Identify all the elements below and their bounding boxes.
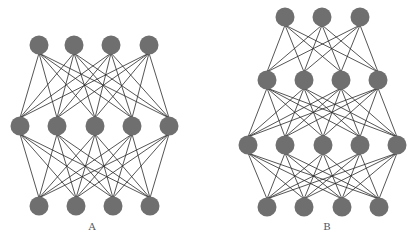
edge-a-l1n3-l2n0 <box>39 134 132 198</box>
node-b-layer1-1 <box>295 71 314 90</box>
edge-a-l1n4-l2n1 <box>76 134 169 198</box>
node-a-layer0-3 <box>140 36 159 55</box>
node-a-layer1-4 <box>160 117 179 136</box>
edge-b-l0n2-l1n2 <box>341 25 360 72</box>
edge-a-l1n4-l2n0 <box>39 134 169 198</box>
edge-b-l1n0-l2n0 <box>248 88 267 137</box>
edge-b-l0n0-l1n0 <box>267 25 285 72</box>
node-b-layer2-2 <box>314 136 333 155</box>
edge-a-l0n2-l1n4 <box>111 53 169 118</box>
node-a-layer0-1 <box>65 36 84 55</box>
edge-b-l2n3-l3n0 <box>267 153 360 199</box>
edge-a-l0n0-l1n4 <box>39 53 169 118</box>
edge-b-l1n2-l2n0 <box>248 88 341 137</box>
edge-a-l0n3-l1n0 <box>20 53 149 118</box>
node-b-layer0-0 <box>276 8 295 27</box>
edge-b-l2n4-l3n3 <box>379 153 397 199</box>
edge-a-l1n1-l2n0 <box>39 134 57 198</box>
node-a-layer2-0 <box>30 197 49 216</box>
node-b-layer0-1 <box>313 8 332 27</box>
node-b-layer2-4 <box>388 136 407 155</box>
node-b-layer3-3 <box>370 198 389 217</box>
network-b-nodes <box>239 8 407 217</box>
edge-a-l0n0-l1n0 <box>20 53 39 118</box>
node-b-layer2-1 <box>276 136 295 155</box>
node-a-layer1-3 <box>123 117 142 136</box>
node-a-layer1-0 <box>11 117 30 136</box>
edge-b-l0n1-l1n3 <box>322 25 378 72</box>
node-b-layer2-3 <box>351 136 370 155</box>
network-diagram-canvas <box>0 0 420 243</box>
edge-b-l2n0-l3n0 <box>248 153 267 199</box>
panel-label-b: B <box>323 222 330 232</box>
node-b-layer3-2 <box>333 198 352 217</box>
node-a-layer0-2 <box>102 36 121 55</box>
network-a-nodes <box>11 36 179 216</box>
node-b-layer1-2 <box>332 71 351 90</box>
edge-a-l0n0-l1n1 <box>39 53 57 118</box>
node-a-layer0-0 <box>30 36 49 55</box>
node-a-layer2-2 <box>104 197 123 216</box>
panel-label-a: A <box>88 222 95 232</box>
node-b-layer3-1 <box>295 198 314 217</box>
edge-b-l1n3-l2n4 <box>378 88 397 137</box>
node-b-layer1-3 <box>369 71 388 90</box>
node-b-layer3-0 <box>258 198 277 217</box>
edge-a-l1n4-l2n3 <box>150 134 169 198</box>
edge-a-l1n2-l2n0 <box>39 134 95 198</box>
node-a-layer1-1 <box>48 117 67 136</box>
node-b-layer2-0 <box>239 136 258 155</box>
node-b-layer0-2 <box>351 8 370 27</box>
edge-b-l1n3-l2n3 <box>360 88 378 137</box>
node-a-layer1-2 <box>86 117 105 136</box>
edge-a-l0n3-l1n4 <box>149 53 169 118</box>
node-b-layer1-0 <box>258 71 277 90</box>
node-a-layer2-1 <box>67 197 86 216</box>
network-b-edges <box>248 25 397 199</box>
edge-a-l0n0-l1n3 <box>39 53 132 118</box>
network-panel-b <box>239 8 407 217</box>
edge-a-l1n0-l2n0 <box>20 134 39 198</box>
edge-a-l1n4-l2n2 <box>113 134 169 198</box>
network-panel-a <box>11 36 179 216</box>
node-a-layer2-3 <box>141 197 160 216</box>
